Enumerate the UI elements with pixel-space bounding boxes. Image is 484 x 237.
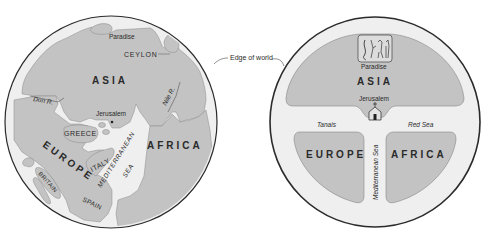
label-africa-left: AFRICA <box>147 140 203 151</box>
label-ceylon: CEYLON <box>124 51 158 58</box>
label-tanais: Tanais <box>317 121 337 128</box>
island-1 <box>99 123 106 128</box>
label-greece: GREECE <box>64 130 97 137</box>
label-red-sea: Red Sea <box>408 121 434 128</box>
jerusalem-dot <box>111 121 114 124</box>
label-asia-left: ASIA <box>92 75 128 86</box>
paradise-vignette-icon <box>358 35 392 62</box>
label-europe-right: EUROPE <box>306 149 366 160</box>
label-africa-right: AFRICA <box>391 149 447 160</box>
edge-pointer-right <box>272 59 284 66</box>
medieval-world-maps-figure: Paradise CEYLON ASIA Don R. Nile R. Jeru… <box>0 0 484 237</box>
label-jerusalem-right: Jerusalem <box>359 95 389 102</box>
edge-of-world-label: Edge of world <box>230 54 273 62</box>
label-paradise-left: Paradise <box>109 33 135 40</box>
island-2 <box>103 130 110 135</box>
label-paradise-right: Paradise <box>361 63 387 70</box>
label-jerusalem-left: Jerusalem <box>96 110 126 117</box>
t-o-map: Paradise ASIA Jerusalem Tanais Red Sea E… <box>270 17 480 227</box>
label-asia-right: ASIA <box>357 76 393 87</box>
label-mediterranean-sea: Mediterranean Sea <box>372 144 379 200</box>
edge-of-world-callout: Edge of world <box>214 54 284 66</box>
edge-pointer-left <box>214 58 228 64</box>
geographic-world-map: Paradise CEYLON ASIA Don R. Nile R. Jeru… <box>5 16 217 228</box>
